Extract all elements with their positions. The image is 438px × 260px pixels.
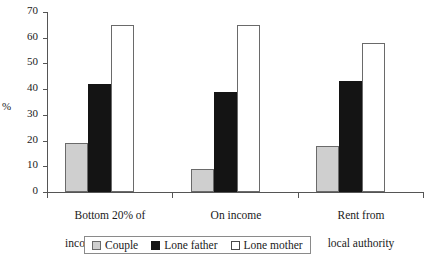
legend-label-couple: Couple xyxy=(105,239,138,251)
y-tick-label-50: 50 xyxy=(27,55,38,67)
bar-lone-mother-group-1 xyxy=(237,25,260,192)
bar-lone-father-group-0 xyxy=(88,84,111,192)
bar-lone-father-group-1 xyxy=(214,92,237,192)
chart-legend: Couple Lone father Lone mother xyxy=(84,236,311,254)
x-group-label-2-line2: local authority xyxy=(298,236,424,250)
legend-item-lone-father[interactable]: Lone father xyxy=(151,239,217,251)
x-group-label-2: Rent from local authority xyxy=(298,194,424,260)
legend-item-lone-mother[interactable]: Lone mother xyxy=(231,239,303,251)
y-tick-label-10: 10 xyxy=(27,158,38,170)
y-tick-30: 30 xyxy=(43,115,48,116)
bar-lone-father-group-2 xyxy=(339,81,362,192)
x-group-label-1-line1: On income xyxy=(173,208,299,222)
x-axis-line xyxy=(47,192,424,193)
x-group-label-0-line1: Bottom 20% of xyxy=(47,208,173,222)
y-tick-50: 50 xyxy=(43,63,48,64)
bar-couple-group-1 xyxy=(191,169,214,192)
y-tick-60: 60 xyxy=(43,38,48,39)
swatch-couple-icon xyxy=(92,241,101,250)
y-tick-label-30: 30 xyxy=(27,107,38,119)
y-tick-10: 10 xyxy=(43,166,48,167)
bar-couple-group-2 xyxy=(316,146,339,192)
x-group-label-2-line1: Rent from xyxy=(298,208,424,222)
y-tick-70: 70 xyxy=(43,12,48,13)
swatch-lone-mother-icon xyxy=(231,241,240,250)
y-tick-label-20: 20 xyxy=(27,133,38,145)
y-tick-label-40: 40 xyxy=(27,81,38,93)
y-axis-label: % xyxy=(2,100,11,112)
y-tick-label-0: 0 xyxy=(33,184,39,196)
bar-lone-mother-group-0 xyxy=(111,25,134,192)
legend-label-lone-mother: Lone mother xyxy=(244,239,303,251)
bar-couple-group-0 xyxy=(65,143,88,192)
swatch-lone-father-icon xyxy=(151,241,160,250)
bar-lone-mother-group-2 xyxy=(362,43,385,192)
y-tick-label-60: 60 xyxy=(27,30,38,42)
bar-chart: % 70 60 50 40 30 20 10 0 Bottom 20% of i… xyxy=(0,0,438,260)
legend-label-lone-father: Lone father xyxy=(164,239,217,251)
legend-item-couple[interactable]: Couple xyxy=(92,239,138,251)
plot-area: 70 60 50 40 30 20 10 0 xyxy=(47,12,424,192)
y-tick-20: 20 xyxy=(43,141,48,142)
y-tick-label-70: 70 xyxy=(27,4,38,16)
y-tick-40: 40 xyxy=(43,89,48,90)
